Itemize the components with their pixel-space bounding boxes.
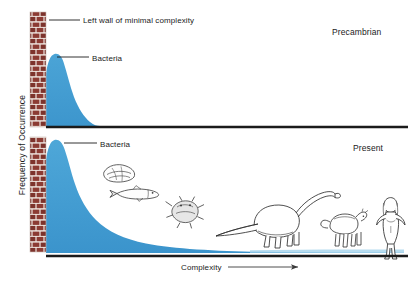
fish-icon xyxy=(110,186,159,202)
clam-shell-icon xyxy=(104,165,135,182)
era-label-precambrian: Precambrian xyxy=(332,27,381,37)
y-axis-label: Frequency of Occurrence xyxy=(17,70,27,220)
brick-wall-icon xyxy=(30,137,46,252)
left-wall-annotation: Left wall of minimal complexity xyxy=(83,16,194,25)
right-arrow-icon xyxy=(228,264,298,270)
present-distribution-tail-light xyxy=(250,249,404,253)
x-axis-label: Complexity xyxy=(181,263,222,272)
panel-present xyxy=(30,137,408,270)
baboon-icon xyxy=(321,209,368,247)
era-label-present: Present xyxy=(353,143,383,153)
bacteria-annotation-precambrian: Bacteria xyxy=(92,54,122,63)
present-distribution-area xyxy=(46,140,404,253)
evolution-complexity-figure: Frequency of Occurrence Left wall of min… xyxy=(0,0,414,287)
crab-icon xyxy=(166,196,204,228)
bacteria-annotation-present: Bacteria xyxy=(100,140,130,149)
precambrian-distribution-area xyxy=(46,54,100,126)
sauropod-dinosaur-icon xyxy=(216,192,340,248)
brick-wall-icon xyxy=(30,12,46,127)
figure-canvas xyxy=(0,0,414,287)
